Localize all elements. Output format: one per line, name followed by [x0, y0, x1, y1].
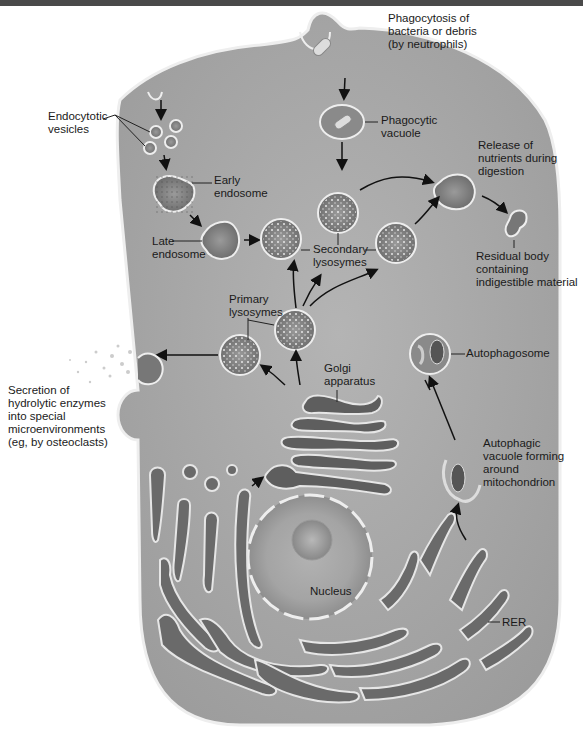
- label-primary-lysosymes: Primary lysosymes: [229, 293, 283, 319]
- autophagosome: [410, 334, 450, 374]
- enzyme-particles: [69, 345, 132, 384]
- secondary-lysosome-2: [261, 219, 301, 259]
- label-residual-body: Residual body containing indigestible ma…: [476, 250, 578, 289]
- label-secretion: Secretion of hydrolytic enzymes into spe…: [8, 384, 108, 449]
- label-release-nutrients: Release of nutrients during digestion: [478, 139, 557, 178]
- label-phagocytosis: Phagocytosis of bacteria or debris (by n…: [388, 12, 477, 51]
- secondary-lysosome-3: [376, 223, 416, 263]
- label-phagocytic-vacuole: Phagocytic vacuole: [381, 114, 437, 140]
- label-autophagic-vacuole: Autophagic vacuole forming around mitoch…: [483, 437, 564, 489]
- label-rer: RER: [502, 616, 526, 629]
- primary-lysosome-2: [220, 335, 260, 375]
- secondary-lysosome-1: [318, 193, 358, 233]
- label-nucleus: Nucleus: [310, 585, 352, 598]
- label-endocytotic-vesicles: Endocytotic vesicles: [48, 110, 107, 136]
- nucleus: [248, 495, 372, 619]
- label-late-endosome: Late endosome: [152, 235, 206, 261]
- label-secondary-lysosymes: Secondary lysosymes: [313, 243, 368, 269]
- label-golgi-apparatus: Golgi apparatus: [324, 362, 375, 388]
- label-autophagosome: Autophagosome: [466, 347, 550, 360]
- secretion-vesicle: [138, 353, 163, 384]
- label-early-endosome: Early endosome: [214, 174, 268, 200]
